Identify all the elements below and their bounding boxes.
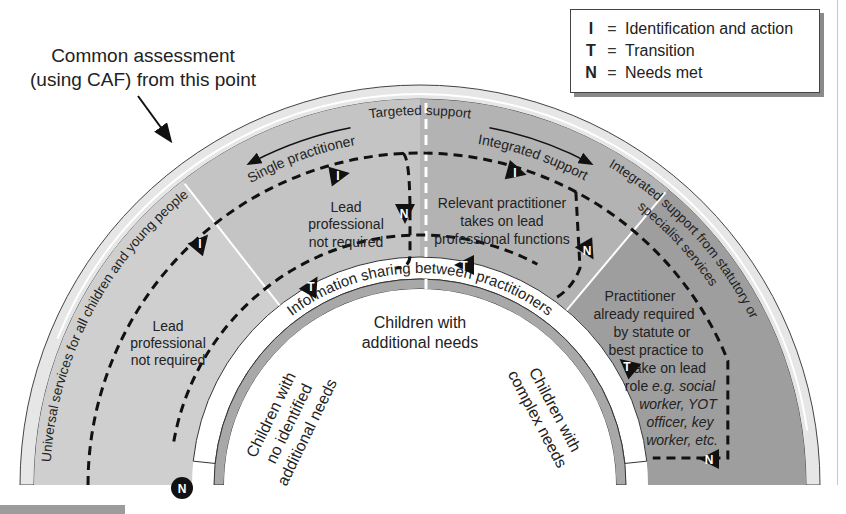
region-text-line: take on lead <box>630 360 706 376</box>
region-text-line: Lead <box>330 199 361 215</box>
marker-letter: T <box>623 360 631 374</box>
marker-letter: I <box>513 166 516 180</box>
callout-line: (using CAF) from this point <box>18 68 268 92</box>
support-bands <box>0 85 846 505</box>
marker-letter: T <box>460 259 468 273</box>
region-text-line: worker, YOT <box>639 396 718 412</box>
marker-letter: N <box>583 244 592 258</box>
legend-description: Identification and action <box>625 20 793 38</box>
region-text-line: by statute or <box>613 324 690 340</box>
legend-description: Needs met <box>625 64 702 82</box>
needs-met-circle-marker: N <box>171 477 193 499</box>
region-text-line: already required <box>593 306 694 322</box>
region-text-line: takes on lead <box>460 213 543 229</box>
region-text-line: professional functions <box>434 231 569 247</box>
inner-label-line: Children with <box>374 314 466 331</box>
marker-letter: N <box>705 453 714 467</box>
region-text-line: best practice to <box>609 342 704 358</box>
legend-equals: = <box>599 20 625 38</box>
marker-letter: I <box>336 169 339 183</box>
legend-equals: = <box>599 42 625 60</box>
region-text-line: not required <box>309 234 384 250</box>
region-text-line: professional <box>308 216 384 232</box>
marker-letter: T <box>307 280 315 294</box>
callout-line: Common assessment <box>18 44 268 68</box>
baseline-mask <box>0 485 846 505</box>
legend-key: T <box>583 42 599 60</box>
common-assessment-callout: Common assessment (using CAF) from this … <box>18 44 268 92</box>
legend-item-needs-met: N = Needs met <box>583 62 819 84</box>
region-text-line: Relevant practitioner <box>438 195 567 211</box>
region-text-line: Lead <box>152 318 183 334</box>
marker-letter: N <box>178 482 187 496</box>
legend-key: N <box>583 64 599 82</box>
marker-letter: I <box>198 237 201 251</box>
region-text-line: worker, etc. <box>646 432 718 448</box>
legend-key: I <box>583 20 599 38</box>
region-text-line: not required <box>131 352 206 368</box>
callout-arrow <box>138 96 170 140</box>
region-text-line: role e.g. social <box>625 378 716 394</box>
inner-label-line: additional needs <box>362 334 479 351</box>
marker-letter: N <box>400 207 409 221</box>
legend: I = Identification and action T = Transi… <box>570 9 820 93</box>
legend-description: Transition <box>625 42 695 60</box>
region-text-line: officer, key <box>647 414 715 430</box>
text-italic: e.g. social <box>652 378 716 394</box>
region-text-line: professional <box>130 335 206 351</box>
legend-equals: = <box>599 64 625 82</box>
region-text-line: Practitioner <box>605 288 676 304</box>
legend-item-transition: T = Transition <box>583 40 819 62</box>
legend-item-identification: I = Identification and action <box>583 18 819 40</box>
text-plain: role <box>625 378 652 394</box>
